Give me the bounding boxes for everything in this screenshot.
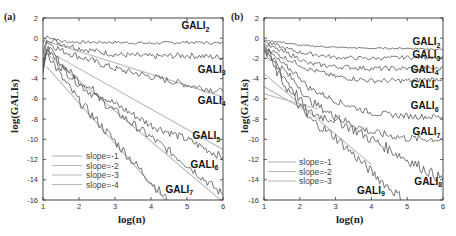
plot-area: 12345620-2-4-6-8-10-12-14-16GALI2GALI3GA… [228,0,456,236]
x-tick-label: 3 [334,202,338,211]
y-tick-label: -4 [252,74,259,83]
curve-label-gali6: GALI6 [411,100,439,113]
curve-label-gali2: GALI2 [413,36,441,49]
y-tick-label: -2 [31,54,38,63]
reference-line [264,74,371,165]
y-tick-label: 2 [34,14,38,23]
x-tick-label: 3 [113,202,117,211]
y-tick-label: -12 [248,155,259,164]
y-tick-label: -10 [27,135,38,144]
curve-gali2 [43,36,223,44]
y-tick-label: -6 [31,94,38,103]
curve-label-gali6: GALI6 [191,159,219,172]
curve-label-gali8: GALI8 [414,176,442,189]
legend-entry: slope=-2 [299,167,332,177]
x-tick-label: 4 [369,202,373,211]
curve-label-gali3: GALI3 [198,64,226,77]
x-tick-label: 1 [262,202,266,211]
x-tick-label: 2 [298,202,302,211]
y-tick-label: -6 [252,94,259,103]
panel-b: (b) log(GALIs) log(n) 12345620-2-4-6-8-1… [228,0,456,236]
curve-label-gali7: GALI7 [413,126,441,139]
legend-entry: slope=-3 [86,170,119,180]
plot-area: 12345620-2-4-6-8-10-12-14-16GALI2GALI3GA… [0,0,228,236]
x-tick-label: 4 [149,202,153,211]
curve-gali9 [264,50,407,202]
y-tick-label: -2 [252,54,259,63]
panel-a: (a) log(GALIs) log(n) 12345620-2-4-6-8-1… [0,0,228,236]
curve-label-gali4: GALI4 [411,64,439,77]
curve-label-gali4: GALI4 [198,95,226,108]
x-tick-label: 6 [441,202,445,211]
x-tick-label: 6 [221,202,225,211]
y-tick-label: -16 [27,196,38,205]
y-tick-label: -8 [252,115,259,124]
y-tick-label: -8 [31,115,38,124]
curve-label-gali5: GALI5 [192,130,220,143]
y-tick-label: -12 [27,155,38,164]
curve-label-gali2: GALI2 [182,20,210,33]
legend-entry: slope=-3 [299,176,332,186]
curve-label-gali9: GALI9 [357,185,385,198]
y-tick-label: -14 [248,175,259,184]
legend-entry: slope=-2 [86,161,119,171]
y-tick-label: 2 [255,14,259,23]
legend-entry: slope=-1 [86,151,119,161]
x-tick-label: 2 [77,202,81,211]
y-tick-label: -14 [27,175,38,184]
x-tick-label: 5 [185,202,189,211]
legend-entry: slope=-1 [299,157,332,167]
y-tick-label: -10 [248,135,259,144]
legend-entry: slope=-4 [86,180,119,190]
y-tick-label: 0 [255,34,259,43]
y-tick-label: -4 [31,74,38,83]
curve-label-gali3: GALI3 [413,49,441,62]
curve-label-gali5: GALI5 [411,79,439,92]
x-tick-label: 1 [41,202,45,211]
y-tick-label: 0 [34,34,38,43]
y-tick-label: -16 [248,196,259,205]
curve-label-gali7: GALI7 [165,184,193,197]
x-tick-label: 5 [405,202,409,211]
